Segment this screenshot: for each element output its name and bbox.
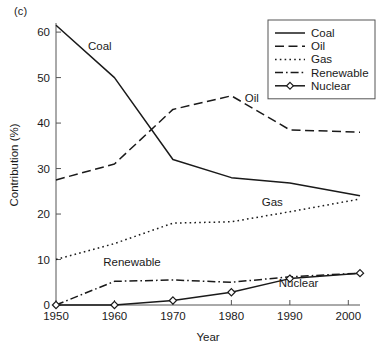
x-tick-label: 1960 [102,310,128,322]
series-annotation-nuclear: Nuclear [279,277,319,289]
y-tick-label: 20 [37,208,50,220]
y-tick-label: 50 [37,72,50,84]
x-axis-ticks: 195019601970198019902000 [43,300,361,322]
x-tick-label: 2000 [336,310,362,322]
figure-panel-c: (c) 0102030405060 1950196019701980199020… [0,0,380,351]
data-point-marker-nuclear [111,301,118,308]
line-chart: 0102030405060 195019601970198019902000 C… [0,0,380,351]
x-tick-label: 1950 [43,310,69,322]
chart-legend: CoalOilGasRenewableNuclear [268,20,375,99]
y-axis-title: Contribution (%) [8,123,20,206]
legend-label-renewable: Renewable [311,67,369,79]
y-tick-label: 40 [37,117,50,129]
x-axis-title: Year [196,331,219,343]
y-tick-label: 10 [37,254,50,266]
y-tick-label: 30 [37,163,50,175]
data-point-marker-nuclear [169,297,176,304]
series-annotation-gas: Gas [262,196,283,208]
legend-label-coal: Coal [311,27,335,39]
legend-label-nuclear: Nuclear [311,80,351,92]
data-point-marker-nuclear [52,301,59,308]
data-point-marker-nuclear [228,289,235,296]
series-annotation-coal: Coal [88,40,112,52]
series-annotation-renewable: Renewable [103,256,161,268]
y-axis-ticks: 0102030405060 [37,26,61,311]
series-line-oil [56,96,360,180]
legend-label-oil: Oil [311,40,325,52]
legend-label-gas: Gas [311,53,332,65]
y-tick-label: 60 [37,26,50,38]
x-tick-label: 1980 [219,310,245,322]
series-annotation-oil: Oil [245,92,259,104]
x-tick-label: 1970 [160,310,186,322]
data-point-marker-nuclear [356,270,363,277]
series-line-gas [56,199,360,259]
x-tick-label: 1990 [277,310,303,322]
